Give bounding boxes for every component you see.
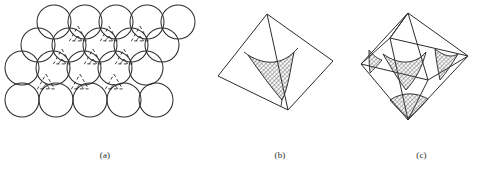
tetrahedral-void-region [248,52,294,100]
panel-octahedral-hole [350,0,493,150]
dashed-hole-triangles [38,26,149,89]
figure-container: (a) (b) (c) [0,0,493,181]
hole-marks [42,36,144,89]
octahedral-hole-drawing [350,0,493,150]
octahedral-void-regions [369,49,458,118]
tetrahedral-hole-drawing [210,0,350,150]
panel-tetrahedral-hole [210,0,350,150]
panel-close-packed-spheres [0,0,210,150]
caption-b: (b) [210,150,350,160]
caption-c: (c) [350,150,493,160]
close-packed-spheres-drawing [0,0,210,150]
caption-a: (a) [0,150,210,160]
